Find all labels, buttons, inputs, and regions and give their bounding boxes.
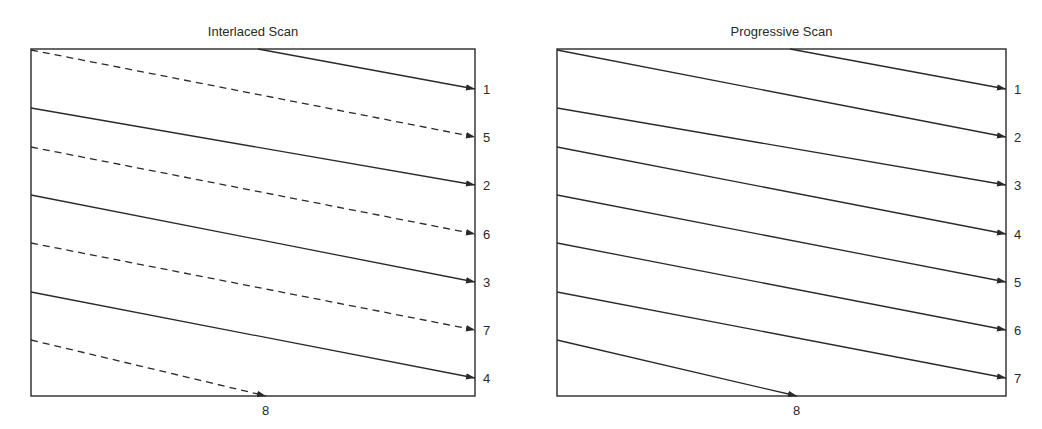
- scan-line-2: [31, 108, 475, 185]
- scan-line-3: [31, 195, 475, 282]
- scan-line-label: 1: [483, 82, 490, 97]
- scan-line-5: [31, 50, 475, 137]
- frame-border: [31, 49, 475, 396]
- scan-line-label: 8: [262, 403, 269, 418]
- scan-line-label: 7: [483, 323, 490, 338]
- scan-line-6: [31, 147, 475, 234]
- scan-line-label: 1: [1014, 82, 1021, 97]
- scan-line-4: [557, 147, 1006, 234]
- scan-line-label: 4: [483, 371, 490, 386]
- scan-line-label: 8: [793, 403, 800, 418]
- progressive-scan-panel: 12345678: [557, 49, 1021, 418]
- scan-line-label: 3: [1014, 178, 1021, 193]
- scan-line-label: 3: [483, 275, 490, 290]
- scan-line-3: [557, 108, 1006, 185]
- scan-line-1: [790, 49, 1006, 89]
- scan-line-label: 2: [1014, 130, 1021, 145]
- scan-line-label: 5: [1014, 275, 1021, 290]
- interlaced-scan-panel: 15263748: [31, 49, 490, 418]
- frame-border: [557, 49, 1006, 396]
- scan-diagram: 15263748 12345678: [0, 0, 1042, 429]
- scan-line-label: 5: [483, 130, 490, 145]
- scan-line-label: 2: [483, 178, 490, 193]
- scan-line-8: [557, 340, 797, 396]
- scan-line-label: 7: [1014, 371, 1021, 386]
- scan-line-5: [557, 195, 1006, 282]
- scan-line-7: [557, 292, 1006, 378]
- scan-line-8: [31, 340, 266, 396]
- scan-line-6: [557, 243, 1006, 330]
- scan-line-7: [31, 243, 475, 330]
- scan-line-1: [258, 49, 475, 89]
- scan-line-label: 6: [1014, 323, 1021, 338]
- scan-line-4: [31, 292, 475, 378]
- scan-line-2: [557, 50, 1006, 137]
- scan-line-label: 4: [1014, 227, 1021, 242]
- scan-line-label: 6: [483, 227, 490, 242]
